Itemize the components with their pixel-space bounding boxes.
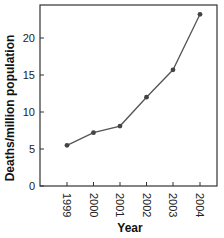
data-point-marker	[171, 67, 176, 72]
data-point-marker	[65, 143, 70, 148]
data-point-marker	[198, 12, 203, 17]
x-axis-title: Year	[117, 221, 143, 235]
x-tick-label: 2003	[167, 193, 179, 217]
y-axis-ticks: 05101520	[23, 32, 44, 192]
y-tick-label: 10	[23, 106, 35, 118]
line-chart: 05101520 199920002001200220032004 Deaths…	[0, 0, 224, 238]
y-tick-label: 20	[23, 32, 35, 44]
data-markers	[65, 12, 203, 148]
x-tick-label: 2004	[194, 193, 206, 217]
x-tick-label: 1999	[61, 193, 73, 217]
x-axis-ticks: 199920002001200220032004	[61, 182, 206, 217]
data-line	[67, 14, 200, 145]
y-axis-title: Deaths/million population	[3, 35, 17, 182]
data-point-marker	[91, 130, 96, 135]
y-tick-label: 15	[23, 69, 35, 81]
data-point-marker	[144, 95, 149, 100]
x-tick-label: 2001	[114, 193, 126, 217]
x-tick-label: 2002	[141, 193, 153, 217]
y-tick-label: 5	[29, 143, 35, 155]
data-point-marker	[118, 124, 123, 129]
x-tick-label: 2000	[88, 193, 100, 217]
y-tick-label: 0	[29, 180, 35, 192]
plot-frame	[40, 5, 217, 186]
